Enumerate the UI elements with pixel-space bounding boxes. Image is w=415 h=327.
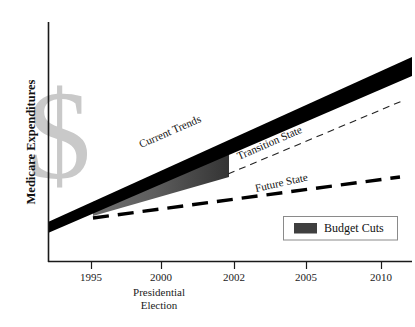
x-axis-caption-line2: Election bbox=[141, 299, 178, 311]
legend-swatch-budget-cuts bbox=[294, 223, 317, 234]
x-tick-label-2002: 2002 bbox=[223, 271, 245, 283]
x-axis-caption-line1: Presidential bbox=[133, 286, 185, 298]
medicare-expenditures-chart: $ 1995 2000 2002 2005 2010 Presidential … bbox=[0, 0, 415, 327]
x-tick-label-2005: 2005 bbox=[295, 271, 318, 283]
chart-canvas: $ 1995 2000 2002 2005 2010 Presidential … bbox=[0, 0, 415, 327]
y-axis-title: Medicare Expenditures bbox=[24, 79, 38, 204]
legend-label-budget-cuts: Budget Cuts bbox=[324, 221, 384, 235]
x-tick-label-2010: 2010 bbox=[370, 271, 393, 283]
x-tick-label-2000: 2000 bbox=[150, 271, 173, 283]
x-tick-label-1995: 1995 bbox=[80, 271, 103, 283]
legend: Budget Cuts bbox=[284, 217, 398, 241]
